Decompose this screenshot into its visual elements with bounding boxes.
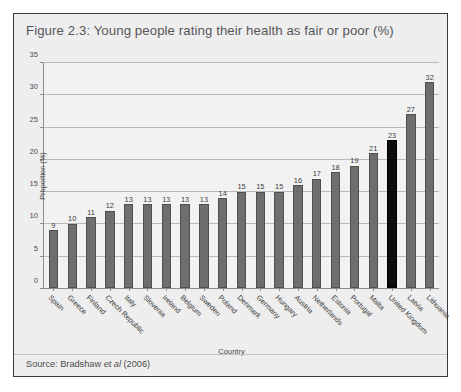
bar-value-label: 10 <box>68 214 76 223</box>
x-axis-category-label: Italy <box>122 293 138 309</box>
x-axis-label-slot: Greece <box>63 291 82 353</box>
bar[interactable]: 27 <box>406 114 415 288</box>
bar-slot: 21 <box>364 63 383 288</box>
bar[interactable]: 15 <box>256 192 265 288</box>
bar-slot: 13 <box>119 63 138 288</box>
x-axis-label-slot: Belgium <box>176 291 195 353</box>
plot-area: 05101520253035 9101112131313131314151515… <box>43 63 439 289</box>
x-axis-label-slot: Hungary <box>270 291 289 353</box>
y-axis-tick-label: 35 <box>30 50 38 59</box>
bar-value-label: 23 <box>388 131 396 140</box>
bar[interactable]: 17 <box>312 179 321 288</box>
bar-value-label: 11 <box>87 208 95 217</box>
bar-slot: 13 <box>157 63 176 288</box>
bar-series: 9101112131313131314151515161718192123273… <box>44 63 439 288</box>
bar[interactable]: 15 <box>274 192 283 288</box>
bar[interactable]: 13 <box>143 204 152 288</box>
bar-slot: 10 <box>63 63 82 288</box>
y-axis-title: Proportion (%) <box>38 152 47 200</box>
x-axis-label-slot: Spain <box>44 291 63 353</box>
bar[interactable]: 19 <box>350 166 359 288</box>
source-prefix: Source: Bradshaw <box>26 359 104 369</box>
x-axis-label-slot: Sweden <box>195 291 214 353</box>
y-axis-tick-label: 25 <box>30 114 38 123</box>
bar-slot: 16 <box>289 63 308 288</box>
bar[interactable]: 12 <box>105 211 114 288</box>
bar[interactable]: 14 <box>218 198 227 288</box>
bar-value-label: 19 <box>350 156 358 165</box>
x-axis-label-slot: Poland <box>214 291 233 353</box>
y-axis-tick-label: 20 <box>30 146 38 155</box>
bar-value-label: 13 <box>143 195 151 204</box>
x-axis-label-slot: Netherlands <box>308 291 327 353</box>
bar[interactable]: 13 <box>199 204 208 288</box>
source-suffix: (2006) <box>121 359 150 369</box>
bar[interactable]: 15 <box>237 192 246 288</box>
figure-title: Figure 2.3: Young people rating their he… <box>26 23 438 38</box>
bar-slot: 13 <box>176 63 195 288</box>
figure-panel: Figure 2.3: Young people rating their he… <box>13 13 448 377</box>
x-axis-label-slot: Ireland <box>157 291 176 353</box>
source-note: Source: Bradshaw et al (2006) <box>26 359 150 369</box>
y-axis-tick-label: 0 <box>34 276 38 285</box>
bar-value-label: 15 <box>237 182 245 191</box>
bar-value-label: 16 <box>294 176 302 185</box>
bar-value-label: 27 <box>407 105 415 114</box>
bar-slot: 32 <box>420 63 439 288</box>
source-divider <box>14 354 447 355</box>
bar[interactable]: 13 <box>180 204 189 288</box>
x-axis-label-slot: Latvia <box>402 291 421 353</box>
x-axis-label-slot: Austria <box>289 291 308 353</box>
bar-value-label: 15 <box>256 182 264 191</box>
bar-value-label: 15 <box>275 182 283 191</box>
x-axis-label-slot: Portugal <box>346 291 365 353</box>
y-axis-tick-label: 10 <box>30 211 38 220</box>
bar[interactable]: 32 <box>425 82 434 288</box>
bar-slot: 11 <box>82 63 101 288</box>
x-axis-label-slot: Lithuania <box>421 291 440 353</box>
bar-value-label: 18 <box>331 163 339 172</box>
x-axis-category-label: Lithuania <box>424 293 451 320</box>
x-axis-label-slot: Estonia <box>327 291 346 353</box>
bar-value-label: 13 <box>162 195 170 204</box>
bar[interactable]: 10 <box>68 224 77 288</box>
bar-value-label: 32 <box>426 73 434 82</box>
bar-value-label: 13 <box>125 195 133 204</box>
x-axis-label-slot: Slovenia <box>138 291 157 353</box>
bar-value-label: 12 <box>106 201 114 210</box>
bar-slot: 17 <box>307 63 326 288</box>
bar-value-label: 9 <box>51 221 55 230</box>
bar-slot: 14 <box>213 63 232 288</box>
x-axis-label-slot: Czech Republic <box>101 291 120 353</box>
bar-slot: 18 <box>326 63 345 288</box>
bar[interactable]: 23 <box>387 140 396 288</box>
bar-slot: 13 <box>138 63 157 288</box>
bar-slot: 15 <box>270 63 289 288</box>
x-axis-label-slot: Denmark <box>233 291 252 353</box>
bar[interactable]: 18 <box>331 172 340 288</box>
y-axis-tick-label: 15 <box>30 179 38 188</box>
bar-slot: 23 <box>383 63 402 288</box>
y-axis-tick-label: 5 <box>34 243 38 252</box>
bar-slot: 15 <box>251 63 270 288</box>
bar-value-label: 13 <box>200 195 208 204</box>
bar[interactable]: 21 <box>369 153 378 288</box>
x-axis-label-slot: Malta <box>365 291 384 353</box>
bar-slot: 19 <box>345 63 364 288</box>
bar-slot: 13 <box>195 63 214 288</box>
x-axis-category-labels: SpainGreeceFinlandCzech RepublicItalySlo… <box>44 291 440 353</box>
bar[interactable]: 16 <box>293 185 302 288</box>
x-axis-label-slot: United Kingdom <box>383 291 402 353</box>
y-axis-tick-label: 30 <box>30 82 38 91</box>
bar[interactable]: 13 <box>124 204 133 288</box>
bar[interactable]: 13 <box>162 204 171 288</box>
bar-value-label: 17 <box>313 169 321 178</box>
plot-frame: 05101520253035 9101112131313131314151515… <box>43 63 439 289</box>
bar-slot: 12 <box>100 63 119 288</box>
bar[interactable]: 11 <box>86 217 95 288</box>
bar[interactable]: 9 <box>49 230 58 288</box>
x-axis-label-slot: Italy <box>119 291 138 353</box>
bar-slot: 15 <box>232 63 251 288</box>
bar-slot: 27 <box>401 63 420 288</box>
x-axis-label-slot: Germany <box>251 291 270 353</box>
